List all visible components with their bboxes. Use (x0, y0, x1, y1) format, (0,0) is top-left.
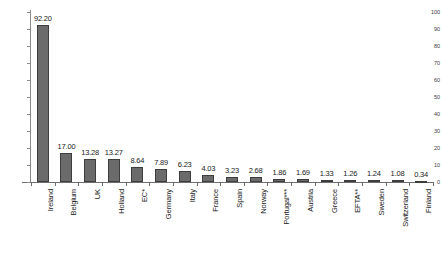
y-axis-line (30, 10, 31, 183)
y-tick-mark (27, 97, 30, 98)
y-tick-label: 80 (414, 43, 440, 49)
x-category-label: UK (93, 189, 102, 199)
x-category-label: Greece (330, 189, 339, 213)
bar (344, 180, 356, 182)
y-tick-mark (27, 182, 30, 183)
y-tick-mark (27, 148, 30, 149)
bar (131, 167, 143, 182)
x-tick-mark (220, 182, 221, 186)
bar (37, 25, 49, 182)
x-tick-mark (267, 182, 268, 186)
y-tick-label: 20 (414, 145, 440, 151)
x-tick-mark (386, 182, 387, 186)
x-category-label: EFTA** (353, 189, 362, 213)
x-tick-mark (55, 182, 56, 186)
y-tick-mark (27, 63, 30, 64)
x-category-label: Belgium (69, 189, 78, 215)
bar (155, 169, 167, 182)
x-category-label: Holland (117, 189, 126, 214)
bar (297, 179, 309, 182)
bar (392, 180, 404, 182)
x-category-label: Ireland (46, 189, 55, 211)
bar (250, 177, 262, 182)
y-tick-mark (27, 80, 30, 81)
y-tick-mark (27, 46, 30, 47)
x-tick-mark (197, 182, 198, 186)
bar-value-label: 92.20 (23, 14, 63, 23)
x-category-label: Norway (259, 189, 268, 214)
x-tick-mark (362, 182, 363, 186)
y-tick-label: 30 (414, 128, 440, 134)
y-tick-label: 10 (414, 162, 440, 168)
x-tick-mark (338, 182, 339, 186)
x-category-label: Italy (188, 189, 197, 202)
y-tick-mark (27, 29, 30, 30)
bar-value-label: 0.34 (401, 170, 441, 179)
bar (321, 180, 333, 182)
x-tick-mark (78, 182, 79, 186)
x-category-label: EC* (140, 189, 149, 202)
y-tick-label: 70 (414, 60, 440, 66)
x-tick-mark (433, 182, 434, 186)
x-tick-mark (291, 182, 292, 186)
x-category-label: Spain (235, 189, 244, 208)
x-tick-mark (409, 182, 410, 186)
x-category-label: Finland (424, 189, 433, 213)
x-tick-mark (31, 182, 32, 186)
bar (60, 153, 72, 182)
x-category-label: Sweden (377, 189, 386, 216)
x-category-label: France (211, 189, 220, 212)
x-category-label: Switzerland (401, 189, 410, 227)
y-tick-label: 60 (414, 77, 440, 83)
bar (368, 180, 380, 182)
x-tick-mark (149, 182, 150, 186)
bar (84, 159, 96, 182)
y-tick-mark (27, 131, 30, 132)
y-tick-mark (27, 165, 30, 166)
x-tick-mark (126, 182, 127, 186)
bar (415, 181, 427, 183)
y-tick-label: 40 (414, 111, 440, 117)
x-tick-mark (244, 182, 245, 186)
x-axis-line (22, 182, 434, 183)
bar (202, 175, 214, 182)
x-tick-mark (315, 182, 316, 186)
x-tick-mark (173, 182, 174, 186)
x-category-label: Austria (306, 189, 315, 212)
x-tick-mark (102, 182, 103, 186)
y-tick-label: 90 (414, 26, 440, 32)
y-tick-mark (27, 12, 30, 13)
bar (273, 179, 285, 182)
y-tick-mark (27, 114, 30, 115)
y-tick-label: 100 (414, 9, 440, 15)
x-category-label: Portugal*** (282, 189, 291, 225)
x-category-label: Germany (164, 189, 173, 219)
bar (226, 177, 238, 182)
y-tick-label: 50 (414, 94, 440, 100)
